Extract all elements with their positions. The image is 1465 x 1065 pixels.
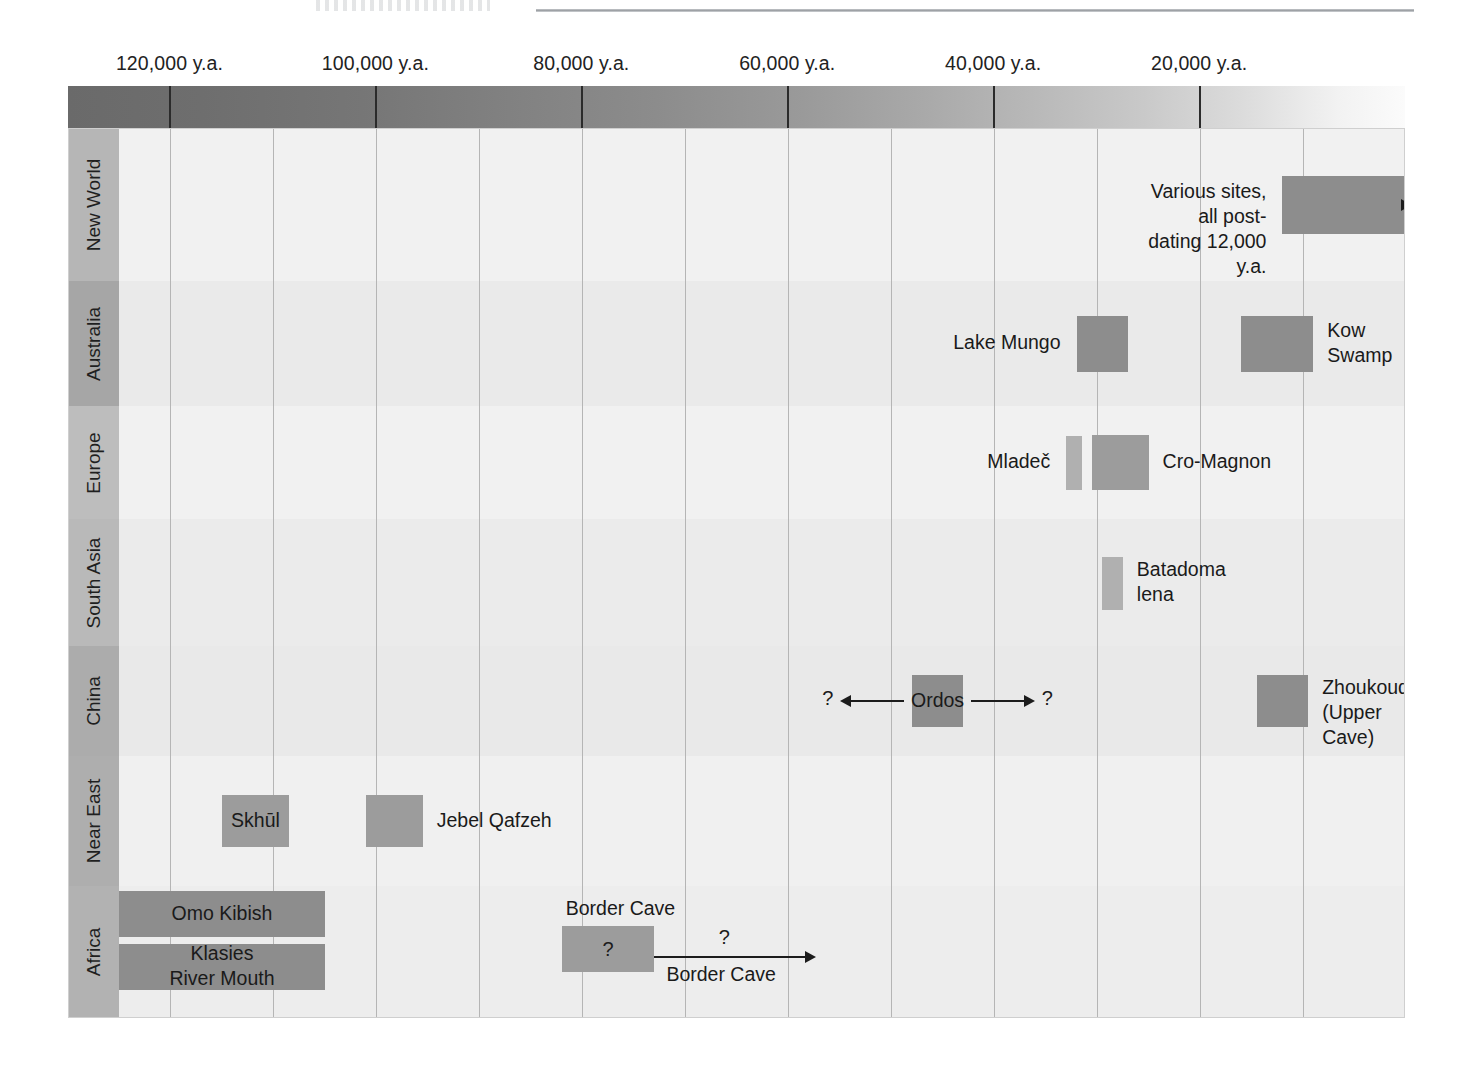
event-bar-cro-magnon[interactable] [1092,435,1149,490]
row-label-text: Europe [83,432,105,493]
gradient-bar-tick [375,86,377,128]
uncertainty-marker-left: ? [822,687,833,710]
uncertainty-marker-right: ? [719,926,730,949]
axis-tick-label: 120,000 y.a. [116,52,223,75]
event-bar-batadoma-lena[interactable] [1102,557,1123,610]
timeline-plot-area: New WorldAustraliaEuropeSouth AsiaChinaN… [68,128,1405,1018]
event-bar-lake-mungo[interactable] [1077,316,1128,372]
arrow-line [971,700,1025,702]
event-label-border-cave: Border Cave [566,896,675,921]
gridline [788,129,789,1018]
gridline [273,129,274,1018]
row-label-europe: Europe [69,406,119,519]
gridline [170,129,171,1018]
row-label-near-east: Near East [69,756,119,886]
event-label-cro-magnon: Cro-Magnon [1163,449,1271,474]
axis-tick-label: 40,000 y.a. [945,52,1041,75]
event-label-mladec: Mladeč [987,449,1050,474]
gradient-bar-tick [1199,86,1201,128]
timeline-row-china [69,646,1405,756]
event-bar-klasies-river-mouth[interactable] [119,944,325,990]
event-label-jebel-qafzeh: Jebel Qafzeh [437,808,552,833]
arrow-label-border-cave: Border Cave [666,962,775,987]
time-gradient-bar [68,86,1405,128]
figure-canvas: 120,000 y.a.100,000 y.a.80,000 y.a.60,00… [0,0,1465,1065]
axis-tick-label: 60,000 y.a. [739,52,835,75]
row-label-text: China [83,676,105,726]
event-label-various-sites-all-post-dating-12-000-y-a: Various sites, all post- dating 12,000 y… [1129,179,1267,279]
event-bar-various-sites-all-post-dating-12-000-y-a[interactable] [1282,176,1405,234]
gradient-bar-tick [993,86,995,128]
arrow-head-icon [1401,199,1405,211]
gradient-bar-tick [581,86,583,128]
gridline [891,129,892,1018]
gridline [376,129,377,1018]
axis-tick-label: 80,000 y.a. [533,52,629,75]
gradient-bar-tick [787,86,789,128]
event-bar-jebel-qafzeh[interactable] [366,795,423,847]
cropped-caption-fragment [316,0,490,11]
event-bar-omo-kibish[interactable] [119,891,325,937]
axis-tick-label: 20,000 y.a. [1151,52,1247,75]
uncertainty-marker: ? [602,938,613,961]
row-label-text: New World [83,159,105,252]
row-label-africa: Africa [69,886,119,1017]
arrow-head-icon [805,951,816,963]
gradient-bar-tick [169,86,171,128]
event-bar-mladec[interactable] [1066,436,1081,490]
row-label-south-asia: South Asia [69,519,119,646]
event-label-lake-mungo: Lake Mungo [953,330,1060,355]
row-label-australia: Australia [69,281,119,406]
row-label-text: Near East [83,779,105,863]
event-bar-kow-swamp[interactable] [1241,316,1313,372]
gridline [582,129,583,1018]
gridline [1303,129,1304,1018]
arrow-line [654,956,806,958]
gridline [994,129,995,1018]
gridline [1097,129,1098,1018]
event-bar-border-cave[interactable]: ? [562,926,655,972]
row-label-text: South Asia [83,537,105,628]
event-bar-zhoukoudian-upper-cave[interactable] [1257,675,1308,727]
event-bar-skhul[interactable] [222,795,289,847]
gridline [685,129,686,1018]
axis-tick-label: 100,000 y.a. [322,52,429,75]
event-label-zhoukoudian-upper-cave: Zhoukoudian (Upper Cave) [1322,675,1405,750]
event-bar-ordos[interactable] [912,675,963,727]
gridline [479,129,480,1018]
axis-top-tick-labels: 120,000 y.a.100,000 y.a.80,000 y.a.60,00… [0,52,1465,78]
row-label-text: Australia [83,307,105,381]
row-label-new-world: New World [69,129,119,281]
row-label-text: Africa [83,927,105,976]
top-horizontal-rule [536,9,1414,12]
row-label-china: China [69,646,119,756]
arrow-head-icon [840,695,851,707]
event-label-kow-swamp: Kow Swamp [1327,318,1392,368]
arrow-head-icon [1024,695,1035,707]
timeline-row-australia [69,281,1405,406]
arrow-line [850,700,904,702]
uncertainty-marker-right: ? [1042,687,1053,710]
event-label-batadoma-lena: Batadoma lena [1137,557,1226,607]
